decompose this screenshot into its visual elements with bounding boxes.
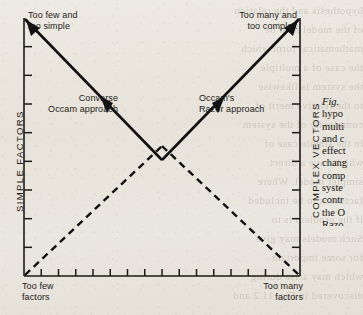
annotation-occams-razor: Occam's Razor approach [199,93,314,115]
label-too-many-factors: Too many factors [213,281,303,303]
axis-ticks [24,47,300,276]
caption-line: and c [322,133,363,145]
caption-line: the O [322,207,363,219]
chart-svg [0,0,315,315]
caption-fig-label: Fig. [322,96,339,107]
line-converse-occam [25,19,162,160]
caption-line: comp [322,170,363,182]
label-too-few-factors: Too few factors [22,281,54,303]
caption-line: Razo [322,219,363,226]
figure-chart: Too few and too simple Too many and too … [0,0,315,315]
caption-line: multi [322,121,363,133]
data-lines [25,19,299,275]
caption-line-fig: Fig. [322,96,363,108]
caption-line: hypo [322,108,363,120]
line-dashed-left [25,146,162,275]
line-occams-razor [162,19,299,160]
figure-caption: Fig. hypomultiand ceffectchangcompsystec… [322,96,363,226]
line-dashed-right [162,146,299,275]
label-too-few-too-simple: Too few and too simple [28,10,78,32]
caption-line: chang [322,157,363,169]
axis-title-right: COMPLEX VECTORS [310,102,321,218]
caption-line: effect [322,145,363,157]
caption-line: syste [322,182,363,194]
axis-title-left: SIMPLE FACTORS [14,110,25,212]
label-too-many-too-complex: Too many and too complex [187,10,297,32]
caption-line: contr [322,194,363,206]
